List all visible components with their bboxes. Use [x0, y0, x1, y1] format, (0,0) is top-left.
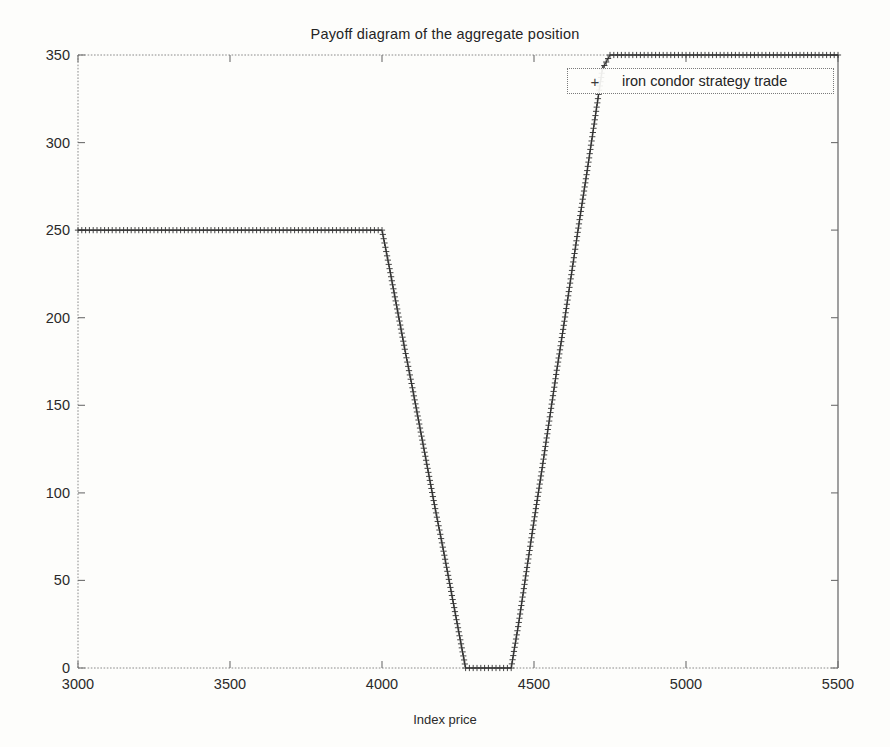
- x-tick-label: 5000: [646, 676, 726, 692]
- y-tick-label: 100: [18, 485, 70, 501]
- y-tick-label: 200: [18, 310, 70, 326]
- plus-marker-icon: +: [568, 74, 622, 89]
- x-tick-label: 4500: [494, 676, 574, 692]
- y-tick-label: 0: [18, 660, 70, 676]
- y-tick-label: 300: [18, 135, 70, 151]
- x-tick-label: 4000: [342, 676, 422, 692]
- x-tick-label: 3500: [190, 676, 270, 692]
- y-tick-label: 50: [18, 572, 70, 588]
- figure-canvas: Payoff diagram of the aggregate position: [0, 0, 890, 747]
- x-tick-label: 5500: [798, 676, 878, 692]
- legend-label: iron condor strategy trade: [622, 73, 787, 89]
- y-tick-label: 350: [18, 47, 70, 63]
- x-tick-label: 3000: [38, 676, 118, 692]
- y-axis-ticks: [78, 55, 838, 668]
- x-axis-label: Index price: [0, 712, 890, 727]
- y-tick-label: 150: [18, 397, 70, 413]
- legend-box: + iron condor strategy trade: [567, 68, 834, 94]
- plot-svg: [0, 0, 890, 747]
- axis-box: [78, 55, 838, 668]
- y-tick-label: 250: [18, 222, 70, 238]
- data-series-iron-condor: [75, 52, 841, 671]
- x-axis-ticks: [78, 55, 838, 668]
